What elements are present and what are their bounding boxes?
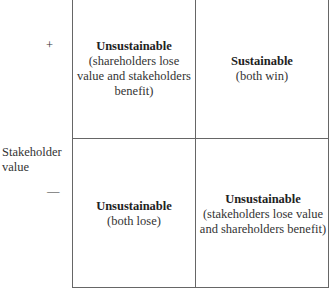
quadrant-top-left: Unsustainable(shareholders lose value an… [74, 0, 194, 138]
quadrant-bottom-right: Unsustainable(stakeholders lose value an… [197, 140, 329, 288]
horizontal-divider [72, 138, 329, 139]
minus-label: — [47, 184, 60, 199]
quadrant-desc: (both win) [236, 69, 288, 83]
plus-label: + [46, 38, 53, 53]
quadrant-title: Unsustainable [74, 39, 194, 54]
quadrant-title: Unsustainable [96, 199, 172, 214]
y-axis-label-2: value [2, 160, 29, 175]
quadrant-desc: (stakeholders lose value and shareholder… [200, 207, 326, 236]
quadrant-desc: (shareholders lose value and stakeholder… [77, 54, 191, 98]
quadrant-bottom-left: Unsustainable(both lose) [74, 140, 194, 288]
quadrant-title: Unsustainable [197, 192, 329, 207]
vertical-divider [195, 0, 196, 288]
quadrant-title: Sustainable [231, 54, 293, 69]
quadrant-top-right: Sustainable(both win) [197, 0, 327, 138]
y-axis-label-1: Stakeholder [2, 145, 62, 160]
quadrant-desc: (both lose) [107, 214, 161, 228]
